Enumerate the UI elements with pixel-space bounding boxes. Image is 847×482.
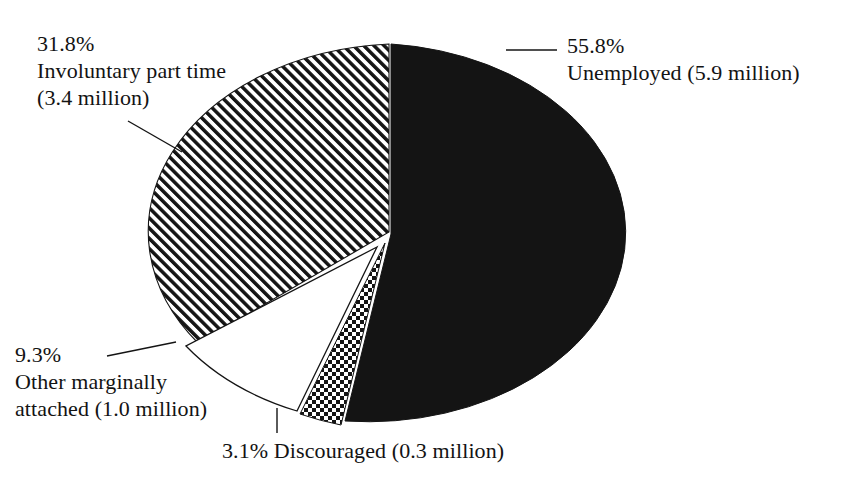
- callout-label-unemployed: 55.8% Unemployed (5.9 million): [567, 32, 800, 86]
- other-marginally-attached-percent: 9.3%: [15, 341, 207, 368]
- other-marginally-attached-name-line2: attached (1.0 million): [15, 395, 207, 422]
- pie-chart-figure: 31.8% Involuntary part time (3.4 million…: [0, 0, 847, 482]
- callout-label-involuntary-part-time: 31.8% Involuntary part time (3.4 million…: [37, 30, 226, 111]
- involuntary-part-time-percent: 31.8%: [37, 30, 226, 57]
- discouraged-text: 3.1% Discouraged (0.3 million): [222, 437, 504, 464]
- other-marginally-attached-name-line1: Other marginally: [15, 368, 207, 395]
- unemployed-percent: 55.8%: [567, 32, 800, 59]
- involuntary-part-time-name: Involuntary part time: [37, 57, 226, 84]
- leader-line-involuntary-part-time: [128, 121, 182, 152]
- callout-label-other-marginally-attached: 9.3% Other marginally attached (1.0 mill…: [15, 341, 207, 422]
- unemployed-name-amount: Unemployed (5.9 million): [567, 59, 800, 86]
- involuntary-part-time-amount: (3.4 million): [37, 84, 226, 111]
- callout-label-discouraged: 3.1% Discouraged (0.3 million): [222, 437, 504, 464]
